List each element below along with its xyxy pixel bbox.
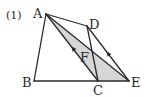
label-f: F	[80, 50, 89, 65]
label-b: B	[22, 75, 32, 90]
problem-number: (1)	[6, 9, 22, 22]
label-e: E	[131, 75, 141, 90]
segment-ab	[34, 14, 46, 81]
label-d: D	[89, 17, 99, 32]
segment-ae	[46, 14, 129, 81]
label-a: A	[32, 6, 43, 21]
label-c: C	[93, 83, 103, 97]
geometry-figure: (1) A B C D E F	[0, 0, 148, 97]
